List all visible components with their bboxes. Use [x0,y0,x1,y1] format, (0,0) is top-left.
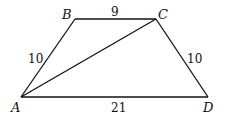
vertex-label-a: A [10,100,20,115]
vertex-label-b: B [61,7,72,22]
edge-label-cd: 10 [187,52,202,66]
edge-label-ad: 21 [111,101,126,115]
diagram-canvas: B C A D 9 10 10 21 [0,0,225,115]
vertex-label-c: C [158,7,168,22]
trapezoid-diagram: B C A D 9 10 10 21 [0,0,225,115]
edge-label-bc: 9 [111,5,119,19]
trapezoid-shape [21,19,208,97]
edge-label-ab: 10 [28,52,43,66]
vertex-label-d: D [202,100,214,115]
